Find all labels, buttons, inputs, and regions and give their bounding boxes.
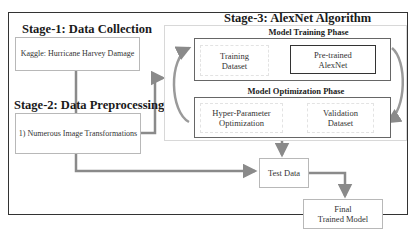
data-source-box: Kaggle: Hurricane Harvey Damage xyxy=(15,37,140,71)
stage2-title: Stage-2: Data Preprocessing xyxy=(14,98,164,113)
validation-dataset-box: ValidationDataset xyxy=(307,103,374,133)
test-data-box: Test Data xyxy=(259,158,309,188)
pretrained-line2: AlexNet xyxy=(314,60,352,70)
training-dataset-line2: Dataset xyxy=(220,61,249,71)
stage1-title: Stage-1: Data Collection xyxy=(22,22,152,37)
training-phase-title: Model Training Phase xyxy=(241,27,376,37)
preprocessing-box: 1) Numerous Image Transformations xyxy=(15,113,141,154)
validation-line2: Dataset xyxy=(323,118,358,128)
final-model-line2: Trained Model xyxy=(318,214,368,224)
stage3-title: Stage-3: AlexNet Algorithm xyxy=(224,11,371,26)
pretrained-line1: Pre-trained xyxy=(314,50,352,60)
validation-line1: Validation xyxy=(323,108,358,118)
final-model-line1: Final xyxy=(318,204,368,214)
hyperparam-line1: Hyper-Parameter xyxy=(212,108,270,118)
final-model-box: FinalTrained Model xyxy=(303,199,383,229)
training-dataset-line1: Training xyxy=(220,51,249,61)
pretrained-alexnet-box: Pre-trainedAlexNet xyxy=(290,45,376,74)
hyperparameter-box: Hyper-ParameterOptimization xyxy=(200,103,283,133)
hyperparam-line2: Optimization xyxy=(212,118,270,128)
training-dataset-box: TrainingDataset xyxy=(200,45,269,76)
optimization-phase-title: Model Optimization Phase xyxy=(226,86,366,96)
